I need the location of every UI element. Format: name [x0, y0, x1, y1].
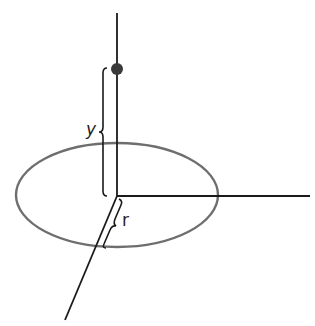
r-label: r — [122, 212, 129, 229]
diagram-canvas: y r — [0, 0, 315, 326]
y-brace — [99, 68, 107, 196]
diagonal-axis — [65, 196, 117, 320]
point-marker — [111, 63, 123, 75]
y-label: y — [86, 121, 96, 138]
diagram-svg — [0, 0, 315, 326]
